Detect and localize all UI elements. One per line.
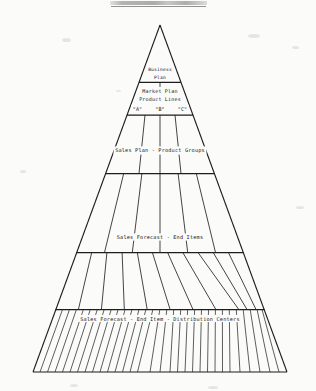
tier3-divider-3: [175, 115, 181, 174]
tier4-divider-4: [178, 174, 188, 253]
tier6-divider-27: [243, 310, 250, 373]
tier5-divider-5: [152, 253, 170, 310]
tier4-divider-2: [132, 174, 142, 253]
tier-3-segment-label-a: "A": [133, 106, 143, 112]
tier5-divider-1: [78, 253, 91, 310]
tier4-divider-5: [196, 174, 215, 253]
tier6-divider-1: [40, 310, 63, 373]
tier4-divider-1: [105, 174, 124, 253]
tier6-divider-28: [250, 310, 260, 373]
figure-root: Business Plan Market Plan Product Lines …: [0, 0, 316, 391]
tier5-divider-7: [183, 253, 216, 310]
tier-5-label: Sales Forecast - End Items: [117, 234, 203, 240]
tier-2-label-line-1: Market Plan: [142, 88, 177, 94]
scan-speck: [292, 46, 299, 49]
tier-6-label: Sales Forecast - End Item - Distribution…: [80, 316, 240, 322]
tier-1-label-line-1: Business: [148, 67, 172, 72]
tier5-divider-3: [122, 253, 124, 310]
scan-speck: [116, 90, 121, 92]
tier-4-label: Sales Plan - Product Groups: [115, 147, 205, 154]
tier-3-segment-label-b: "B": [155, 106, 165, 112]
scan-speck: [296, 206, 304, 209]
scan-speck: [248, 34, 260, 38]
tier5-divider-6: [168, 253, 193, 310]
tier6-divider-30: [262, 310, 279, 373]
scan-speck: [62, 38, 71, 42]
pyramid-diagram: Business Plan Market Plan Product Lines …: [0, 0, 316, 391]
scan-speck: [70, 384, 78, 387]
tier-1-label-line-2: Plan: [154, 75, 166, 80]
tier-2-label-line-2: Product Lines: [139, 96, 181, 102]
scan-speck: [20, 170, 26, 173]
tier-3-segment-label-c: "C": [178, 106, 188, 112]
tier5-divider-2: [101, 253, 107, 310]
tier5-divider-4: [137, 253, 147, 310]
tier3-divider-1: [139, 115, 145, 174]
scan-speck: [208, 386, 218, 389]
